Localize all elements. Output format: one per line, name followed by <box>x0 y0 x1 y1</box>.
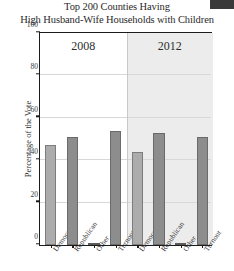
y-tick-label-20: 20 <box>31 189 39 198</box>
y-tick-mark-60 <box>36 116 40 117</box>
y-tick-label-80: 80 <box>31 62 39 71</box>
chart-title-line1: Top 200 Counties Having <box>64 1 170 12</box>
x-tick-label-2008-other: Other <box>94 234 111 253</box>
y-tick-mark-0 <box>36 243 40 244</box>
bar-2012-turnout <box>197 137 208 245</box>
chart-figure: Top 200 Counties Having High Husband-Wif… <box>0 0 234 271</box>
bar-2008-republican <box>67 137 78 245</box>
panel-label-2008: 2008 <box>40 39 127 54</box>
y-tick-mark-80 <box>36 73 40 74</box>
y-tick-mark-100 <box>36 31 40 32</box>
bar-2008-democrat <box>45 145 56 245</box>
y-tick-mark-20 <box>36 201 40 202</box>
gridline-20 <box>40 202 211 203</box>
gridline-40 <box>40 159 211 160</box>
y-tick-label-0: 0 <box>34 232 38 241</box>
y-tick-label-40: 40 <box>31 147 39 156</box>
y-tick-label-100: 100 <box>27 20 38 29</box>
bar-2012-republican <box>153 133 164 245</box>
y-tick-mark-40 <box>36 158 40 159</box>
bar-2008-turnout <box>110 131 121 245</box>
gridline-60 <box>40 117 211 118</box>
y-tick-label-60: 60 <box>31 104 39 113</box>
bar-2012-democrat <box>132 152 143 245</box>
panel-divider <box>127 33 128 245</box>
gridline-80 <box>40 74 211 75</box>
plot-area: Percentage of the Vote 0204060801002008D… <box>39 32 212 246</box>
panel-label-2012: 2012 <box>127 39 214 54</box>
